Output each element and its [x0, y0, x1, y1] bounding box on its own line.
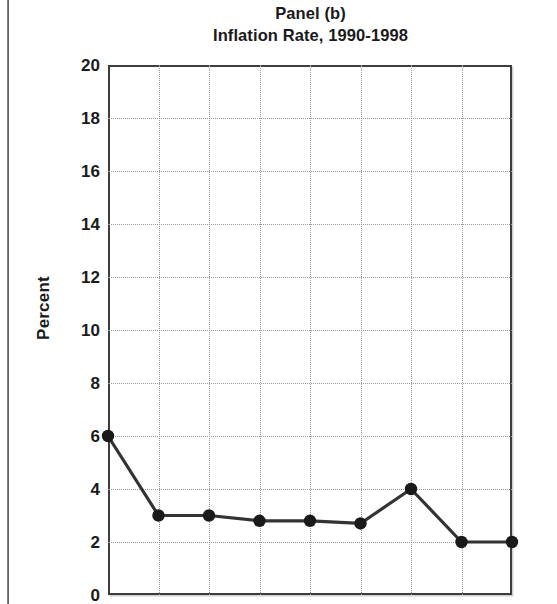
- data-point-marker: 1991: 3: [152, 509, 164, 521]
- data-point-marker: 1997: 2: [455, 536, 467, 548]
- y-tick-label: 2: [52, 534, 100, 551]
- data-point-marker: 1998: 2: [506, 536, 518, 548]
- data-point-marker: 1993: 2.8: [253, 515, 265, 527]
- y-tick-label: 0: [52, 587, 100, 604]
- chart-title: Inflation Rate, 1990-1998: [108, 24, 513, 47]
- y-tick-label: 16: [52, 163, 100, 180]
- y-tick-label: 6: [52, 428, 100, 445]
- y-tick-label: 8: [52, 375, 100, 392]
- y-tick-label: 20: [52, 57, 100, 74]
- series-inflation-rate: 1990: 61991: 31992: 31993: 2.81994: 2.81…: [108, 65, 512, 595]
- panel-label: Panel (b): [108, 2, 513, 24]
- chart-title-block: Panel (b) Inflation Rate, 1990-1998: [108, 2, 513, 47]
- data-point-marker: 1995: 2.7: [354, 517, 366, 529]
- y-tick-label: 10: [52, 322, 100, 339]
- y-axis-tick-labels: 02468101214161820: [52, 65, 100, 595]
- plot-area: 1990: 61991: 31992: 31993: 2.81994: 2.81…: [108, 65, 512, 595]
- y-tick-label: 12: [52, 269, 100, 286]
- inflation-rate-figure: Panel (b) Inflation Rate, 1990-1998 Perc…: [0, 0, 557, 604]
- y-tick-label: 4: [52, 481, 100, 498]
- data-point-marker: 1994: 2.8: [304, 515, 316, 527]
- data-point-marker: 1990: 6: [102, 430, 114, 442]
- data-point-marker: 1992: 3: [203, 509, 215, 521]
- data-point-marker: 1996: 4: [405, 483, 417, 495]
- page-edge-artifact: [7, 0, 9, 604]
- y-tick-label: 18: [52, 110, 100, 127]
- y-axis-label: Percent: [34, 248, 54, 368]
- y-tick-label: 14: [52, 216, 100, 233]
